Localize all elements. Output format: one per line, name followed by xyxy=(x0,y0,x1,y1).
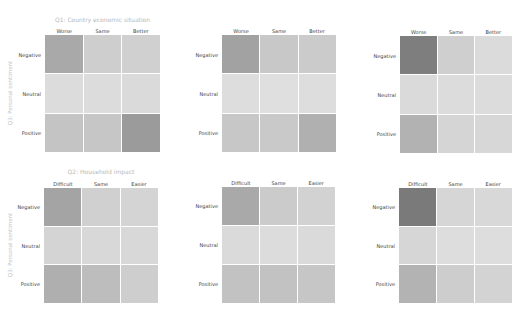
heatmap-cell xyxy=(400,36,437,74)
column-header: Same xyxy=(437,181,475,187)
heatmap-cell xyxy=(400,75,437,113)
heatmap-cell xyxy=(44,227,81,265)
heatmap-cell xyxy=(82,188,119,226)
heatmap-cell xyxy=(122,114,160,152)
heatmap-cell xyxy=(438,115,475,153)
heatmap-cell xyxy=(299,74,336,112)
column-header: Same xyxy=(82,181,120,187)
heatmap-cell xyxy=(121,265,158,303)
heatmap-cells xyxy=(400,36,512,153)
heatmap-cell xyxy=(438,75,475,113)
row-header: Negative xyxy=(0,204,40,210)
heatmap-cell xyxy=(45,35,83,73)
row-header: Positive xyxy=(0,281,40,287)
panel-title: Q1: Country economic situation xyxy=(45,16,160,23)
heatmap-cell xyxy=(121,188,158,226)
heatmap-cell xyxy=(475,265,512,303)
column-header: Better xyxy=(298,28,336,34)
heatmap-cell xyxy=(222,35,259,73)
heatmap-cell xyxy=(260,187,297,225)
heatmap-cell xyxy=(44,188,81,226)
column-header: Easier xyxy=(474,181,512,187)
heatmap-cell xyxy=(222,114,259,152)
heatmap-cells xyxy=(222,35,336,152)
row-header: Neutral xyxy=(178,91,218,97)
column-header: Better xyxy=(475,29,512,35)
heatmap-cell xyxy=(298,265,335,303)
heatmap-cell xyxy=(298,187,335,225)
row-header: Negative xyxy=(1,52,41,58)
row-header: Neutral xyxy=(178,242,218,248)
heatmap-cell xyxy=(44,265,81,303)
row-header: Neutral xyxy=(0,243,40,249)
heatmap-cell xyxy=(437,265,474,303)
heatmap-cell xyxy=(260,35,297,73)
heatmap-cell xyxy=(475,115,512,153)
heatmap-cells xyxy=(222,187,335,303)
column-header: Difficult xyxy=(222,180,260,186)
row-header: Positive xyxy=(178,281,218,287)
heatmap-cell xyxy=(122,74,160,112)
row-header: Positive xyxy=(355,281,395,287)
heatmap-cell xyxy=(121,227,158,265)
column-header: Worse xyxy=(400,29,437,35)
heatmap-cell xyxy=(437,188,474,226)
column-header: Easier xyxy=(120,181,158,187)
column-header: Difficult xyxy=(399,181,437,187)
heatmap-cell xyxy=(82,227,119,265)
heatmap-cell xyxy=(475,227,512,265)
column-header: Same xyxy=(260,28,298,34)
heatmap-cell xyxy=(299,114,336,152)
row-header: Positive xyxy=(1,130,41,136)
heatmap-cell xyxy=(84,114,122,152)
heatmap-cell xyxy=(299,35,336,73)
heatmap-cell xyxy=(84,35,122,73)
heatmap-cell xyxy=(437,227,474,265)
heatmap-cell xyxy=(45,114,83,152)
column-header: Difficult xyxy=(44,181,82,187)
heatmap-cells xyxy=(399,188,512,303)
row-header: Positive xyxy=(178,130,218,136)
heatmap-cell xyxy=(260,114,297,152)
column-header: Worse xyxy=(45,28,83,34)
heatmap-cell xyxy=(475,188,512,226)
row-header: Positive xyxy=(356,131,396,137)
heatmap-cell xyxy=(475,36,512,74)
panel-title: Q2: Household impact xyxy=(44,168,158,175)
heatmap-cell xyxy=(298,226,335,264)
heatmap-cell xyxy=(222,226,259,264)
heatmap-cells xyxy=(44,188,158,303)
row-header: Negative xyxy=(178,52,218,58)
heatmap-cell xyxy=(399,188,436,226)
heatmap-cell xyxy=(260,265,297,303)
heatmap-cell xyxy=(222,265,259,303)
heatmap-cell xyxy=(222,74,259,112)
column-header: Worse xyxy=(222,28,260,34)
row-header: Negative xyxy=(355,204,395,210)
heatmap-cell xyxy=(122,35,160,73)
column-header: Easier xyxy=(297,180,335,186)
heatmap-cell xyxy=(438,36,475,74)
heatmap-cell xyxy=(399,227,436,265)
row-header: Negative xyxy=(178,203,218,209)
row-header: Neutral xyxy=(355,243,395,249)
heatmap-cell xyxy=(260,226,297,264)
heatmap-cells xyxy=(45,35,160,152)
heatmap-cell xyxy=(475,75,512,113)
row-header: Neutral xyxy=(1,91,41,97)
column-header: Same xyxy=(260,180,298,186)
heatmap-cell xyxy=(399,265,436,303)
heatmap-cell xyxy=(260,74,297,112)
column-header: Same xyxy=(437,29,474,35)
heatmap-cell xyxy=(82,265,119,303)
heatmap-cell xyxy=(84,74,122,112)
heatmap-cell xyxy=(222,187,259,225)
heatmap-cell xyxy=(45,74,83,112)
row-header: Negative xyxy=(356,53,396,59)
column-header: Same xyxy=(83,28,121,34)
heatmap-cell xyxy=(400,115,437,153)
row-header: Neutral xyxy=(356,92,396,98)
column-header: Better xyxy=(122,28,160,34)
